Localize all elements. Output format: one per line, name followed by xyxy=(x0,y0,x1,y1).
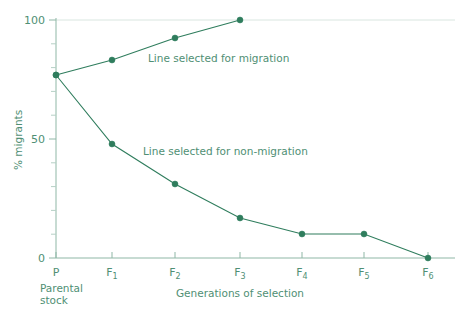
chart-container: 100 50 0 % migrants P F1 F2 F3 F4 F5 F6 … xyxy=(0,0,460,310)
x-tick-label-F6: F6 xyxy=(422,266,433,281)
x-tick-label-F3: F3 xyxy=(234,266,245,281)
series-migration-label: Line selected for migration xyxy=(148,52,289,64)
series-non-migration-point-F5 xyxy=(361,231,367,237)
series-non-migration-point-F2 xyxy=(172,181,178,187)
x-tick-label-F1: F1 xyxy=(106,266,117,281)
y-axis-title: % migrants xyxy=(12,110,24,170)
series-non-migration-point-P xyxy=(53,72,59,78)
series-non-migration-point-F4 xyxy=(299,231,305,237)
series-non-migration-point-F3 xyxy=(237,215,243,221)
series-non-migration-label: Line selected for non-migration xyxy=(143,145,308,157)
x-tick-label-F4: F4 xyxy=(296,266,307,281)
series-non-migration-point-F6 xyxy=(425,255,431,261)
series-migration-point-F2 xyxy=(172,35,178,41)
series-non-migration-line xyxy=(56,75,428,258)
x-tick-label-F2: F2 xyxy=(169,266,180,281)
y-tick-label-50: 50 xyxy=(31,133,45,146)
series-migration-line xyxy=(56,20,240,75)
x-tick-label-F5: F5 xyxy=(358,266,369,281)
series-non-migration-point-F1 xyxy=(109,141,115,147)
series-migration-point-F1 xyxy=(109,57,115,63)
series-migration-point-F3 xyxy=(237,17,243,23)
y-tick-label-100: 100 xyxy=(24,14,45,27)
x-axis-title: Generations of selection xyxy=(176,287,304,299)
x-axis-note-line1: Parental xyxy=(40,282,83,294)
x-axis-note-line2: stock xyxy=(40,294,69,306)
y-tick-label-0: 0 xyxy=(38,252,45,265)
migration-selection-line-chart: 100 50 0 % migrants P F1 F2 F3 F4 F5 F6 … xyxy=(0,0,460,310)
x-tick-label-P: P xyxy=(53,266,60,279)
